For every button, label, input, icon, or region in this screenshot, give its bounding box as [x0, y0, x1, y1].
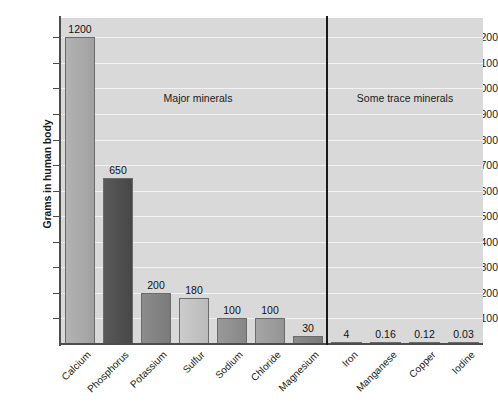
bar-calcium: [65, 37, 95, 344]
annotation-major-minerals: Major minerals: [164, 92, 233, 104]
bar-chloride: [255, 318, 285, 344]
gridline: [61, 140, 483, 141]
plot-area: Major mineralsSome trace minerals: [61, 18, 483, 344]
bar-phosphorus: [103, 178, 133, 344]
bar-value-label: 100: [261, 304, 279, 316]
group-divider-line: [326, 16, 328, 345]
gridline: [61, 114, 483, 115]
bar-value-label: 1200: [68, 23, 91, 35]
y-axis-title: Grams in human body: [41, 64, 53, 284]
bar-value-label: 0.16: [375, 328, 395, 340]
category-label-sulfur: Sulfur: [181, 349, 207, 375]
category-label-sodium: Sodium: [213, 349, 245, 381]
gridline: [61, 63, 483, 64]
bar-value-label: 200: [147, 279, 165, 291]
category-label-potassium: Potassium: [128, 349, 169, 390]
gridline: [61, 88, 483, 89]
bar-value-label: 0.03: [453, 328, 473, 340]
bar-sodium: [217, 318, 247, 344]
gridline: [61, 37, 483, 38]
y-axis-line: [59, 16, 61, 346]
category-label-chloride: Chloride: [249, 349, 283, 383]
bar-sulfur: [179, 298, 209, 344]
category-label-calcium: Calcium: [59, 349, 92, 382]
category-label-iodine: Iodine: [449, 349, 476, 376]
bar-value-label: 0.12: [414, 328, 434, 340]
bar-value-label: 180: [185, 284, 203, 296]
category-label-manganese: Manganese: [354, 349, 399, 394]
mineral-bar-chart: Grams in human body 12001100100090080070…: [0, 0, 498, 417]
bar-value-label: 100: [223, 304, 241, 316]
annotation-trace-minerals: Some trace minerals: [357, 92, 453, 104]
bar-value-label: 650: [109, 164, 127, 176]
bar-value-label: 30: [302, 322, 314, 334]
x-axis-line: [59, 343, 483, 345]
bar-value-label: 4: [344, 328, 350, 340]
category-label-magnesium: Magnesium: [276, 349, 320, 393]
category-label-copper: Copper: [406, 349, 437, 380]
category-label-iron: Iron: [339, 349, 359, 369]
bar-potassium: [141, 293, 171, 344]
